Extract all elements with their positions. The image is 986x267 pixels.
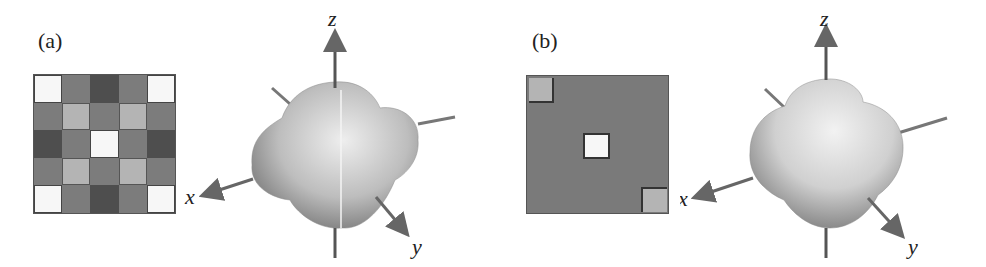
grid-cell-dark [90,185,118,213]
grid-cell-dark [90,75,118,103]
y-axis [376,197,402,228]
grid-cell-mid [62,130,90,158]
grid-cell-white [147,75,175,103]
y-axis [868,198,897,230]
grid-cell-mid [147,158,175,186]
grid-cell-white [147,185,175,213]
grid-cell-mid [62,185,90,213]
surface-b [750,79,903,228]
neg-x-axis [272,88,290,104]
panel-b-label: (b) [532,28,558,54]
corner-square-top-left [529,78,554,103]
grid-cell-mid [119,185,147,213]
grid-cell-dark [34,130,62,158]
panel-b-grid [526,75,669,214]
grid-cell-light [62,103,90,131]
grid-cell-mid [62,75,90,103]
neg-y-axis [418,117,455,124]
grid-cell-mid [147,103,175,131]
y-label: y [906,234,918,259]
grid-cell-light [62,158,90,186]
z-label: z [327,6,337,31]
grid-cell-mid [90,103,118,131]
grid-cell-white [34,185,62,213]
grid-cell-mid [34,158,62,186]
y-label: y [410,234,422,259]
grid-cell-dark [147,130,175,158]
surface-a [252,82,418,228]
panel-a-3d-plot: z x y [180,0,470,267]
panel-a-grid [33,74,176,214]
panel-a-label: (a) [38,28,62,54]
grid-cell-white [34,75,62,103]
x-label: x [680,186,688,211]
grid-cell-mid [119,130,147,158]
grid-cell-white [90,130,118,158]
grid-cell-mid [34,103,62,131]
grid-cell-light [119,103,147,131]
x-label: x [184,184,195,209]
grid-cell-mid [90,158,118,186]
center-square [583,133,610,159]
x-axis [210,179,253,193]
grid-cell-light [119,158,147,186]
panel-b-3d-plot: z x y [680,0,986,267]
neg-y-axis [898,118,947,133]
x-axis [702,178,753,195]
grid-cell-mid [119,75,147,103]
neg-x-axis [765,89,785,108]
z-label: z [819,6,829,31]
corner-square-bottom-right [641,187,667,212]
